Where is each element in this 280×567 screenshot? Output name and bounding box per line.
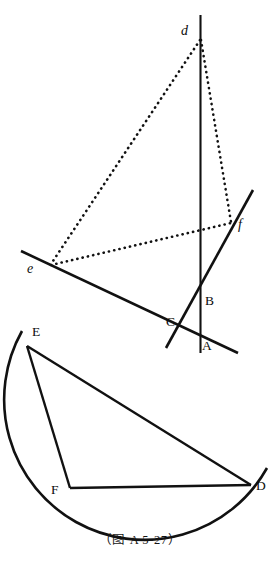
dotted-segment-d-f [201,40,231,222]
circle-arc-E-D [4,331,267,540]
point-label-d: d [181,24,188,38]
lower-figure-group [4,331,267,540]
figure-page: d f e B C A E F D （图 A 5-27） [0,0,280,567]
point-label-f: f [238,218,242,232]
figure-caption: （图 A 5-27） [0,529,280,548]
point-label-C: C [166,315,175,329]
point-label-B: B [205,294,214,308]
upper-figure-group [21,15,253,353]
point-label-e: e [27,262,33,276]
point-label-F: F [51,483,59,497]
point-label-A: A [202,339,212,353]
dotted-segment-e-f [51,223,231,265]
line-through-f [166,190,253,348]
chord-F-D [70,485,251,488]
geometry-figure-canvas [0,0,280,567]
point-label-D: D [256,479,266,493]
point-label-E: E [32,325,40,339]
chord-E-D [27,346,251,485]
triangle-def-dotted [51,40,231,265]
dotted-segment-d-e [51,40,200,264]
